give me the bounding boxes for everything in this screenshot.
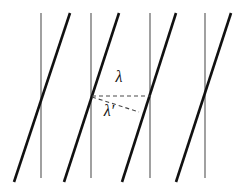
- wavefront-lines: [14, 13, 231, 182]
- lambda-prime-label: λ′: [103, 102, 115, 119]
- lambda-label: λ: [115, 68, 123, 85]
- wavefront-line-3: [122, 13, 176, 182]
- wavefront-line-4: [176, 13, 231, 182]
- wavefront-line-1: [14, 13, 70, 182]
- dashed-annotations: [92, 96, 151, 112]
- diagram-canvas: λ λ′: [0, 0, 244, 190]
- lambda-prime-dashed-line: [92, 97, 139, 112]
- wavelength-scattering-diagram: λ λ′: [0, 0, 244, 190]
